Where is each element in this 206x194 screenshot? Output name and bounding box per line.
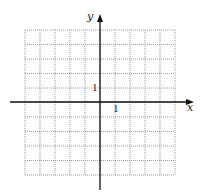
x-unit-label: 1 bbox=[113, 102, 119, 114]
coordinate-plane: x y 1 1 bbox=[0, 0, 206, 194]
y-unit-label: 1 bbox=[92, 81, 98, 93]
x-axis-label: x bbox=[187, 101, 194, 114]
y-axis-label: y bbox=[86, 10, 94, 23]
y-axis-arrow-icon bbox=[97, 14, 103, 22]
